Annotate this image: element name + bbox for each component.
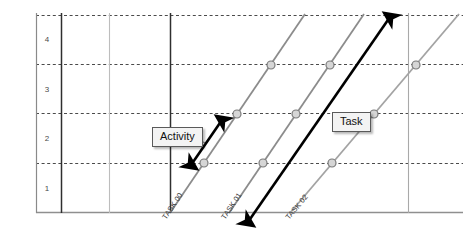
y-tick-label-4: 4	[40, 35, 54, 44]
horizontal-gridlines	[36, 16, 463, 164]
y-tick-label-3: 3	[40, 85, 54, 94]
task-00-marker	[200, 159, 208, 167]
y-tick-label-1: 1	[40, 184, 54, 193]
task-01-marker	[292, 110, 300, 118]
diagram-canvas: 4 3 2 1 TASK 00 TASK 01 TASK 02 Activity…	[0, 0, 463, 242]
task-02-marker	[370, 110, 378, 118]
task-00-marker	[233, 110, 241, 118]
task-01-marker	[259, 159, 267, 167]
y-tick-label-2: 2	[40, 134, 54, 143]
task-00-marker	[267, 61, 275, 69]
task-01-marker	[326, 61, 334, 69]
callout-task[interactable]: Task	[332, 112, 371, 132]
task-02-marker	[328, 159, 336, 167]
callout-activity[interactable]: Activity	[152, 127, 203, 147]
task-02-marker	[412, 61, 420, 69]
